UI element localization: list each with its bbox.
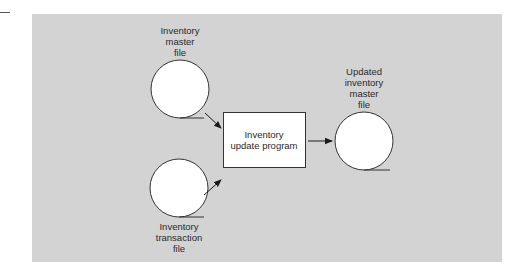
updated-master-file-disk-icon bbox=[335, 112, 393, 170]
master-file-label: Inventory master file bbox=[150, 25, 210, 58]
master-file-disk-icon bbox=[151, 60, 209, 118]
updated-master-file-label: Updated inventory master file bbox=[334, 66, 394, 110]
update-program-label: Inventory update program bbox=[223, 112, 305, 167]
transaction-file-disk-icon bbox=[150, 159, 208, 217]
arrow-master-to-program bbox=[205, 113, 221, 128]
transaction-file-label: Inventory transaction file bbox=[146, 221, 212, 254]
